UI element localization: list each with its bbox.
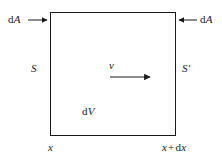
plus-operator: + — [167, 141, 175, 153]
label-surface-right: S′ — [182, 63, 190, 74]
label-da-left: dA — [8, 14, 21, 25]
label-volume-element: dV — [82, 106, 95, 117]
area-symbol-left: A — [14, 13, 21, 25]
label-surface-left: S — [31, 63, 37, 74]
label-x-right: x+dx — [162, 142, 186, 153]
area-symbol-right: A — [206, 13, 213, 25]
volume-symbol: V — [88, 105, 95, 117]
dx-symbol: x — [181, 141, 186, 153]
label-da-right: dA — [200, 14, 213, 25]
figure-canvas — [0, 0, 222, 158]
control-volume-box — [51, 13, 176, 136]
control-volume-figure: dA dA S S′ v dV x x+dx — [0, 0, 222, 158]
label-velocity: v — [109, 60, 114, 71]
label-x-left: x — [48, 142, 53, 153]
